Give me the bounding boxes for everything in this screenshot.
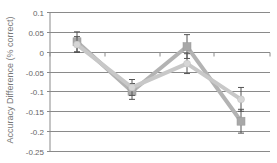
- line-chart: 0.10.050-0.05-0.1-0.15-0.2-0.25 Accuracy…: [0, 0, 277, 163]
- y-axis-title: Accuracy Difference (% correct): [5, 17, 15, 144]
- y-axis-label-layer: Accuracy Difference (% correct): [0, 0, 277, 163]
